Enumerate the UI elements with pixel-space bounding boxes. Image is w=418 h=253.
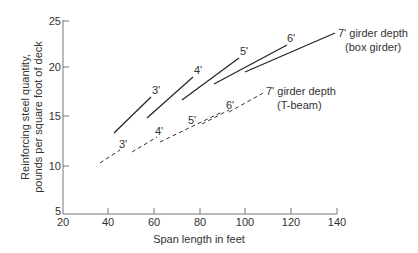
y-tick-label: 15 [49,110,61,122]
t-beam-6ft-line [202,110,229,124]
t-beam-4ft-line [132,137,157,152]
x-tick-label: 60 [148,216,160,228]
tbeam-4ft-label: 4' [155,125,163,137]
box-6ft-label: 6' [287,32,295,44]
axes [63,20,337,214]
tbeam-5ft-label: 5' [188,114,196,126]
x-tick-label: 20 [57,216,69,228]
box-4ft-label: 4' [194,64,202,76]
x-axis-title: Span length in feet [153,233,245,245]
box-5ft-label: 5' [240,45,248,57]
t-beam-label: (T-beam) [277,99,322,111]
x-tick-label: 120 [282,216,300,228]
y-axis-title-line2: pounds per square foot of deck [32,41,44,193]
tbeam-3ft-label: 3' [119,138,127,150]
box-girder-3ft-line [114,97,151,133]
box-3ft-label: 3' [152,84,160,96]
y-axis-title-line1: Reinforcing steel quantity, [19,54,31,180]
x-tick-label: 80 [194,216,206,228]
chart: 25 20 15 10 5 20 40 60 80 100 120 140 Sp… [0,0,418,253]
tbeam-6ft-label: 6' [226,99,234,111]
box-girder-label: (box girder) [345,41,401,53]
t-beam-3ft-line [100,150,120,163]
x-tick-label: 40 [102,216,114,228]
box-7ft-label: 7' girder depth [338,27,408,39]
box-girder-series [114,33,335,133]
y-tick-labels: 25 20 15 10 5 [49,15,61,217]
t-beam-series [100,92,265,163]
box-girder-6ft-line [214,45,287,84]
y-tick-label: 10 [49,160,61,172]
y-tick-label: 20 [49,61,61,73]
x-tick-label: 100 [236,216,254,228]
tbeam-7ft-label: 7' girder depth [266,85,336,97]
x-tick-label: 140 [328,216,346,228]
series-labels: 3' 4' 5' 6' 7' girder depth (box girder)… [119,27,408,150]
y-tick-label: 25 [49,15,61,27]
t-beam-7ft-line [229,92,265,112]
x-tick-labels: 20 40 60 80 100 120 140 [57,216,346,228]
y-axis-title: Reinforcing steel quantity, pounds per s… [19,41,44,193]
